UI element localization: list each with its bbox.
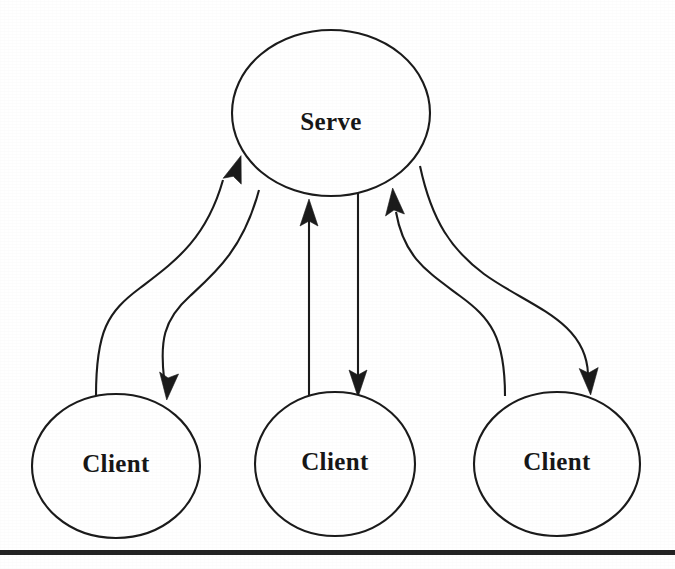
edge-right-down-arrowhead (579, 368, 599, 396)
client-left-label: Client (82, 450, 150, 477)
client-server-diagram: Serve Client Client Client (0, 0, 675, 569)
node-client-right[interactable]: Client (474, 392, 640, 536)
edge-left-down-arrowhead (157, 372, 179, 401)
edge-left-up-arrowhead (223, 153, 249, 185)
client-middle-label: Client (301, 448, 369, 475)
edge-right-down (420, 166, 600, 396)
edge-right-down-line (420, 166, 588, 374)
edge-left-down-line (163, 190, 259, 378)
footer-rule (0, 550, 675, 555)
edge-right-up (383, 187, 505, 396)
edge-middle-up (300, 199, 318, 396)
edge-middle-down (349, 193, 367, 397)
edge-right-up-arrowhead (383, 187, 405, 216)
client-right-label: Client (523, 448, 591, 475)
edge-left-up (96, 153, 250, 396)
edge-left-down (157, 190, 259, 401)
node-client-left[interactable]: Client (32, 394, 200, 538)
node-client-middle[interactable]: Client (255, 392, 415, 536)
diagram-canvas: Serve Client Client Client (0, 0, 675, 569)
server-label: Serve (300, 108, 362, 135)
edge-left-up-line (96, 180, 223, 396)
node-server[interactable]: Serve (232, 30, 430, 196)
